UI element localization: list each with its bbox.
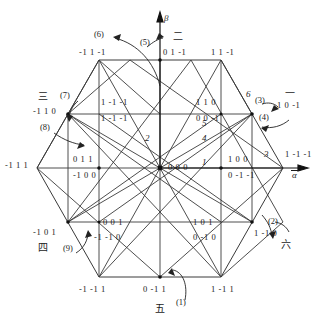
region-number: 5 bbox=[202, 119, 207, 128]
sector-label-san: 三 bbox=[38, 92, 48, 102]
index-label: -1 0 1 bbox=[33, 228, 56, 237]
index-label: 0 -1 1 bbox=[143, 285, 166, 294]
callout-1: (1) bbox=[176, 298, 186, 307]
region-number: 6 bbox=[246, 90, 251, 99]
callout-5: (5) bbox=[140, 38, 150, 47]
index-label: 1 0 -1 bbox=[277, 101, 300, 110]
index-label: 0 -1 0 bbox=[193, 233, 216, 242]
region-number: 3 bbox=[264, 150, 269, 159]
index-label: 0 0 1 bbox=[103, 218, 123, 227]
callout-6: (6) bbox=[94, 30, 104, 39]
sector-label-si: 四 bbox=[38, 243, 48, 253]
index-label: -1 0 0 bbox=[73, 171, 96, 180]
index-label: 0 -1 -1 bbox=[228, 171, 255, 180]
alpha-axis-label: α bbox=[292, 171, 297, 180]
lattice-linework bbox=[0, 0, 322, 322]
callout-8: (8) bbox=[40, 123, 50, 132]
origin-index-label: 0 0 0 bbox=[168, 163, 188, 172]
index-label: -1 1 0 bbox=[33, 107, 56, 116]
beta-axis-label: β bbox=[164, 14, 168, 23]
origin-dot bbox=[158, 166, 163, 171]
alpha-overbar bbox=[291, 170, 299, 171]
index-label: 1 -1 -1 bbox=[101, 98, 128, 107]
index-label: 1 1 0 bbox=[196, 98, 216, 107]
sector-label-er: 二 bbox=[173, 32, 183, 42]
callout-3: (3) bbox=[255, 96, 265, 105]
index-label: 1 -1 -1 bbox=[101, 114, 128, 123]
callout-7: (7) bbox=[60, 91, 70, 100]
index-label: 1 -1 -1 bbox=[285, 150, 312, 159]
index-label: 1 -1 1 bbox=[211, 285, 234, 294]
region-number: 2 bbox=[145, 134, 150, 143]
index-label: -1 1 1 bbox=[5, 161, 28, 170]
region-number: 4 bbox=[202, 134, 207, 143]
index-label: -1 1 -1 bbox=[79, 48, 106, 57]
index-label: 0 1 1 bbox=[73, 155, 93, 164]
index-label: 1 0 1 bbox=[193, 218, 213, 227]
index-label: 1 1 -1 bbox=[211, 48, 234, 57]
callout-4: (4) bbox=[259, 113, 269, 122]
index-label: 1 -1 0 bbox=[254, 229, 277, 238]
callout-9: (9) bbox=[63, 244, 73, 253]
sector-label-wu: 五 bbox=[155, 304, 165, 314]
sector-label-liu: 六 bbox=[281, 240, 291, 250]
region-number: 1 bbox=[202, 158, 207, 167]
index-label: -1 -1 0 bbox=[94, 233, 121, 242]
figure-canvas: β α -1 1 -1 0 1 -1 1 1 -1 -1 1 0 1 -1 -1… bbox=[0, 0, 322, 322]
index-label: 1 0 0 bbox=[228, 155, 248, 164]
sector-label-yi: 一 bbox=[285, 89, 295, 99]
index-label: -1 -1 1 bbox=[79, 285, 106, 294]
callout-2: (2) bbox=[268, 217, 278, 226]
index-label: 0 1 -1 bbox=[163, 48, 186, 57]
index-label: 0 0 -1 bbox=[196, 114, 219, 123]
